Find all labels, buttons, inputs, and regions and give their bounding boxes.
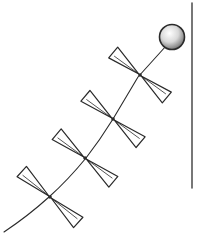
illustration-canvas [0,0,205,234]
ball [160,25,185,50]
bow-knot [48,195,52,199]
bow-knot [111,117,115,121]
bow-knot [138,73,142,77]
bow-knot [83,156,87,160]
kite-tail-drawing [0,0,205,234]
